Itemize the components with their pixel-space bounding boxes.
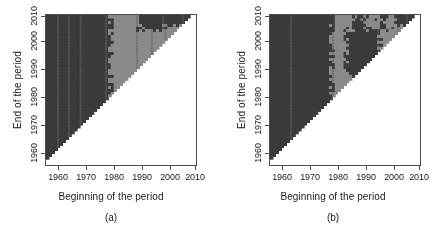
y-tick-b-2000 — [265, 41, 269, 42]
x-ticklabel-b-2010: 2010 — [403, 172, 435, 182]
x-tick-a-1960 — [58, 166, 59, 170]
y-tick-a-1960 — [41, 153, 45, 154]
x-tick-a-2000 — [170, 166, 171, 170]
y-ticklabel-a-1960: 1960 — [29, 137, 39, 169]
x-tick-a-1990 — [142, 166, 143, 170]
y-tick-a-1990 — [41, 69, 45, 70]
panel-a: 1960 1970 1980 1990 2000 2010 1960 1970 … — [0, 0, 222, 233]
x-tick-a-2010 — [195, 166, 196, 170]
y-ticklabel-a-2010: 2010 — [29, 0, 39, 32]
y-tick-b-1990 — [265, 69, 269, 70]
x-tick-b-1980 — [338, 166, 339, 170]
x-tick-a-1970 — [86, 166, 87, 170]
y-ticklabel-a-1970: 1970 — [29, 109, 39, 141]
x-tick-b-1970 — [310, 166, 311, 170]
plot-area-b — [269, 14, 421, 166]
x-ticklabel-a-2010: 2010 — [179, 172, 211, 182]
x-tick-b-2010 — [419, 166, 420, 170]
y-ticklabel-b-1970: 1970 — [253, 109, 263, 141]
heatmap-canvas-b — [270, 15, 420, 165]
y-tick-b-1970 — [265, 125, 269, 126]
y-tick-a-2010 — [41, 16, 45, 17]
x-tick-b-1960 — [282, 166, 283, 170]
panel-label-a: (a) — [0, 212, 222, 223]
panel-b: 1960 1970 1980 1990 2000 2010 1960 1970 … — [222, 0, 444, 233]
x-tick-b-2000 — [394, 166, 395, 170]
y-ticklabel-b-1980: 1980 — [253, 81, 263, 113]
y-axis-title-a: End of the period — [12, 14, 23, 166]
plot-area-a — [45, 14, 197, 166]
y-tick-b-2010 — [265, 16, 269, 17]
y-tick-b-1960 — [265, 153, 269, 154]
y-ticklabel-b-1960: 1960 — [253, 137, 263, 169]
y-tick-a-1970 — [41, 125, 45, 126]
y-ticklabel-a-1980: 1980 — [29, 81, 39, 113]
y-ticklabel-b-1990: 1990 — [253, 53, 263, 85]
x-axis-title-a: Beginning of the period — [0, 191, 222, 202]
y-axis-title-b: End of the period — [236, 14, 247, 166]
y-ticklabel-a-1990: 1990 — [29, 53, 39, 85]
y-tick-a-1980 — [41, 97, 45, 98]
y-ticklabel-b-2010: 2010 — [253, 0, 263, 32]
y-tick-a-2000 — [41, 41, 45, 42]
x-axis-title-b: Beginning of the period — [222, 191, 444, 202]
panel-label-b: (b) — [222, 212, 444, 223]
y-tick-b-1980 — [265, 97, 269, 98]
x-tick-b-1990 — [366, 166, 367, 170]
heatmap-canvas-a — [46, 15, 196, 165]
x-tick-a-1980 — [114, 166, 115, 170]
figure-two-heatmap-panels: 1960 1970 1980 1990 2000 2010 1960 1970 … — [0, 0, 444, 233]
